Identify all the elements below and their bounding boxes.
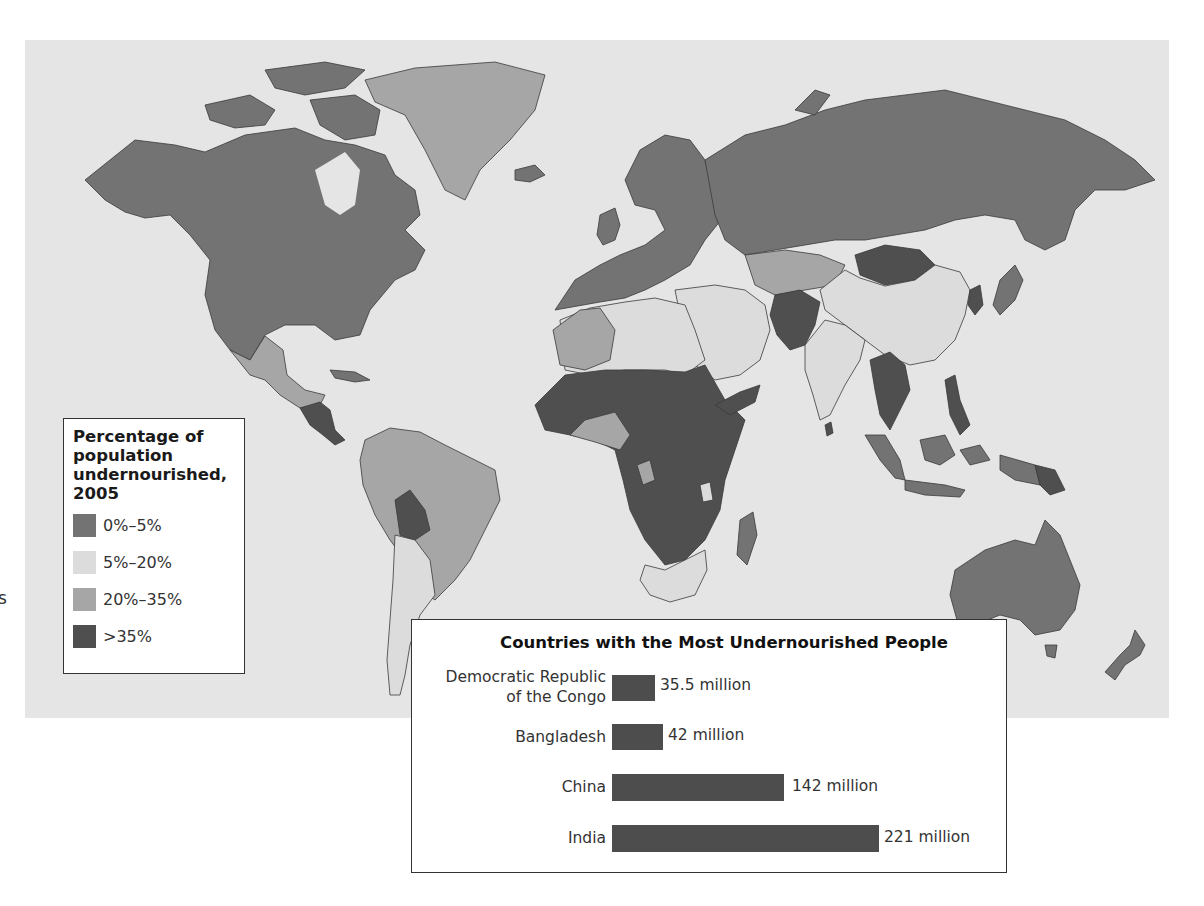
legend-swatch: [73, 588, 96, 611]
bar-chart-panel: Countries with the Most Undernourished P…: [411, 619, 1007, 873]
legend-label: 5%–20%: [103, 553, 172, 572]
bar-label: Democratic Republic of the Congo: [445, 667, 606, 707]
bar-label-line-1: Democratic Republic: [445, 667, 606, 687]
legend-item-over-35: >35%: [73, 618, 236, 655]
region-philippines: [945, 375, 970, 435]
region-iceland: [515, 165, 545, 182]
legend-title-line-3: undernourished,: [73, 465, 236, 484]
chart-title: Countries with the Most Undernourished P…: [412, 633, 1006, 652]
bar-label: India: [568, 828, 606, 848]
region-russia: [705, 90, 1155, 255]
cropped-edge-text: s: [0, 588, 7, 608]
legend-item-20-35: 20%–35%: [73, 581, 236, 618]
map-legend: Percentage of population undernourished,…: [63, 418, 245, 674]
bar-value: 142 million: [792, 777, 878, 795]
region-northwest-africa: [553, 308, 615, 370]
legend-title-line-4: 2005: [73, 484, 236, 503]
bar-label: Bangladesh: [515, 727, 606, 747]
region-japan: [993, 265, 1023, 315]
region-new-guinea: [1000, 455, 1040, 485]
bar-india: [612, 825, 879, 852]
legend-label: 0%–5%: [103, 516, 162, 535]
bar-value: 42 million: [668, 726, 744, 744]
region-europe: [555, 135, 725, 310]
bar-value: 35.5 million: [660, 676, 751, 694]
region-sri-lanka: [825, 422, 833, 436]
legend-label: 20%–35%: [103, 590, 182, 609]
legend-swatch: [73, 625, 96, 648]
legend-title: Percentage of population undernourished,…: [73, 427, 236, 503]
region-new-zealand: [1105, 630, 1145, 680]
legend-item-5-20: 5%–20%: [73, 544, 236, 581]
bar-drc: [612, 675, 655, 701]
region-uk: [597, 208, 620, 245]
legend-title-line-2: population: [73, 446, 236, 465]
legend-label: >35%: [103, 627, 152, 646]
bar-china: [612, 774, 784, 801]
region-north-america: [85, 128, 425, 360]
legend-item-0-5: 0%–5%: [73, 507, 236, 544]
region-caribbean: [330, 370, 370, 382]
bar-label-line-2: of the Congo: [445, 687, 606, 707]
legend-title-line-1: Percentage of: [73, 427, 236, 446]
region-india: [805, 320, 865, 420]
legend-swatch: [73, 514, 96, 537]
region-papua-new-guinea: [1035, 465, 1065, 495]
region-madagascar: [737, 512, 757, 565]
region-korea: [968, 285, 983, 315]
legend-swatch: [73, 551, 96, 574]
region-central-america: [300, 402, 345, 445]
bar-bangladesh: [612, 724, 663, 750]
region-australia: [950, 520, 1080, 635]
region-indonesia: [865, 435, 990, 497]
region-tasmania: [1045, 645, 1057, 658]
region-southeast-asia: [870, 352, 910, 430]
bar-value: 221 million: [884, 828, 970, 846]
bar-label: China: [562, 777, 606, 797]
